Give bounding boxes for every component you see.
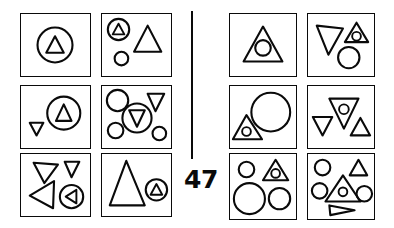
down-triangle	[313, 117, 332, 135]
up-triangle	[110, 161, 145, 206]
panel-left-r3c1	[20, 153, 91, 217]
down-triangle	[30, 123, 44, 136]
circle	[239, 162, 255, 178]
circle-with-up-triangle	[108, 19, 129, 40]
circle-icon	[255, 40, 271, 56]
circle-with-up-triangle	[47, 97, 80, 130]
panel-left-r2c1-content	[21, 86, 90, 148]
down-triangle	[65, 162, 80, 178]
up-triangle	[351, 118, 370, 135]
figure-page: 47	[0, 0, 394, 228]
circle-icon	[352, 32, 361, 41]
left-triangle-icon	[66, 190, 77, 204]
panel-left-r1c2-content	[102, 14, 171, 76]
vertical-divider-rule	[191, 11, 193, 159]
panel-left-r1c1-content	[21, 14, 90, 76]
circle	[357, 186, 373, 202]
right-triangle	[329, 205, 354, 215]
circle-icon	[242, 127, 251, 136]
panel-right-r2c1	[229, 85, 297, 149]
circle	[234, 183, 265, 214]
down-triangle	[317, 26, 343, 55]
panel-left-r1c1	[20, 13, 91, 77]
circle	[312, 183, 328, 199]
panel-right-r3c2-content	[308, 154, 374, 219]
circle-with-left-triangle	[60, 185, 83, 208]
panel-right-r1c1-content	[230, 14, 296, 76]
circle-icon	[339, 104, 349, 114]
up-triangle	[350, 160, 367, 176]
up-triangle	[134, 26, 161, 52]
circle-with-up-triangle	[38, 28, 73, 63]
up-triangle-icon	[56, 104, 72, 120]
circle-with-up-triangle	[146, 179, 167, 200]
left-triangle	[30, 181, 54, 208]
panel-left-r2c2-content	[102, 86, 171, 148]
panel-left-r1c2	[101, 13, 172, 77]
panel-left-r3c2	[101, 153, 172, 217]
panel-right-r1c2-content	[308, 14, 374, 76]
circle	[115, 52, 129, 66]
panel-right-r3c1-content	[230, 154, 296, 219]
circle-with-down-triangle	[122, 103, 151, 132]
circle	[251, 93, 290, 132]
up-triangle-icon	[46, 36, 63, 52]
panel-right-r2c2-content	[308, 86, 374, 148]
circle-icon	[271, 169, 280, 178]
panel-right-r3c2	[307, 153, 375, 220]
circle	[338, 47, 359, 68]
panel-right-r3c1	[229, 153, 297, 220]
panel-left-r2c1	[20, 85, 91, 149]
circle	[269, 188, 290, 209]
down-triangle	[148, 94, 165, 111]
circle	[315, 160, 331, 176]
circle	[153, 127, 167, 141]
circle	[108, 123, 124, 139]
panel-right-r2c2	[307, 85, 375, 149]
page-number: 47	[179, 166, 223, 194]
down-triangle-icon	[129, 110, 145, 126]
panel-left-r2c2	[101, 85, 172, 149]
panel-left-r3c1-content	[21, 154, 90, 216]
up-triangle-with-circle	[325, 175, 360, 201]
panel-right-r1c1	[229, 13, 297, 77]
panel-left-r3c2-content	[102, 154, 171, 216]
circle-icon	[339, 187, 348, 196]
panel-right-r1c2	[307, 13, 375, 77]
panel-right-r2c1-content	[230, 86, 296, 148]
up-triangle-icon	[151, 184, 163, 195]
up-triangle-icon	[113, 24, 125, 35]
down-triangle	[34, 163, 58, 183]
